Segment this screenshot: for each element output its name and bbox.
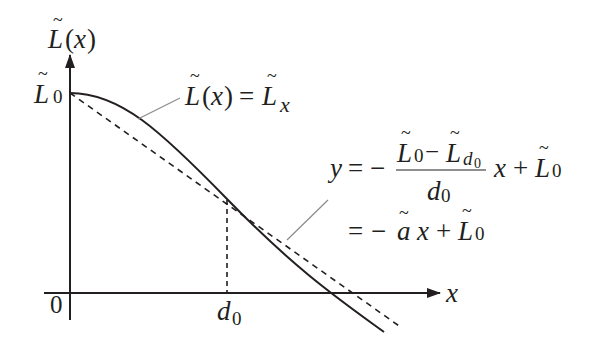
svg-text:~: ~: [399, 203, 409, 223]
svg-text:y: y: [327, 153, 342, 183]
svg-text:~: ~: [401, 123, 411, 143]
svg-text:=: =: [348, 216, 363, 246]
svg-text:): ): [224, 81, 233, 111]
svg-text:=: =: [348, 153, 363, 183]
svg-text:−: −: [370, 153, 385, 183]
svg-text:0: 0: [475, 223, 485, 244]
svg-text:(: (: [202, 81, 211, 111]
d0-label: d 0: [217, 296, 242, 329]
svg-text:−: −: [371, 216, 386, 246]
svg-text:0: 0: [53, 86, 63, 107]
line-equation: y = − L ~ 0 − L ~ d 0 d 0 x + L ~ 0: [327, 123, 562, 206]
svg-text:): ): [87, 24, 96, 54]
x-axis-label: x: [445, 278, 458, 308]
svg-text:+: +: [436, 216, 451, 246]
svg-text:d: d: [463, 148, 473, 169]
curve-label: L ~ ( x ) = L ~ x: [184, 66, 290, 117]
svg-text:−: −: [425, 138, 439, 165]
svg-text:~: ~: [190, 66, 200, 86]
svg-text:d: d: [427, 176, 441, 206]
svg-text:~: ~: [267, 66, 277, 86]
y-intercept-label: L ~ 0: [33, 64, 63, 109]
svg-text:0: 0: [474, 156, 481, 171]
y-axis-label: L ~ ( x ): [47, 10, 96, 54]
svg-text:d: d: [217, 296, 231, 326]
svg-text:0: 0: [414, 145, 424, 166]
svg-text:x: x: [493, 153, 506, 183]
svg-text:x: x: [279, 92, 290, 117]
svg-text:~: ~: [38, 64, 48, 84]
diagram: L ~ ( x ) L ~ 0 L ~ ( x ) = L ~ x y = − …: [0, 0, 591, 353]
svg-text:0: 0: [552, 160, 562, 181]
line-leader-line: [287, 200, 328, 240]
origin-label: 0: [50, 291, 63, 318]
svg-text:~: ~: [462, 201, 472, 221]
svg-text:0: 0: [232, 308, 242, 329]
svg-text:x: x: [73, 24, 86, 54]
svg-text:0: 0: [441, 185, 451, 206]
curve-leader-line: [138, 98, 180, 119]
svg-text:x: x: [210, 81, 223, 111]
svg-text:+: +: [513, 153, 528, 183]
line-equation-simplified: = − a ~ x + L ~ 0: [348, 201, 485, 246]
tilde-mark: ~: [53, 10, 63, 30]
svg-text:=: =: [239, 81, 254, 111]
svg-text:~: ~: [539, 138, 549, 158]
svg-text:~: ~: [450, 123, 460, 143]
svg-text:x: x: [416, 216, 429, 246]
svg-text:(: (: [65, 24, 74, 54]
